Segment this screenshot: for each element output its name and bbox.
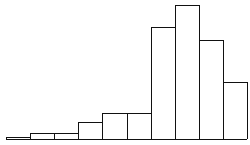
histogram-bar (102, 113, 128, 139)
histogram-bar (127, 113, 153, 139)
histogram-bar (175, 5, 201, 139)
histogram-bar (151, 27, 177, 139)
x-axis-baseline (6, 139, 247, 140)
histogram-chart (0, 0, 250, 145)
histogram-bar (78, 122, 104, 139)
histogram-bar (199, 40, 225, 139)
histogram-bar (223, 82, 249, 139)
